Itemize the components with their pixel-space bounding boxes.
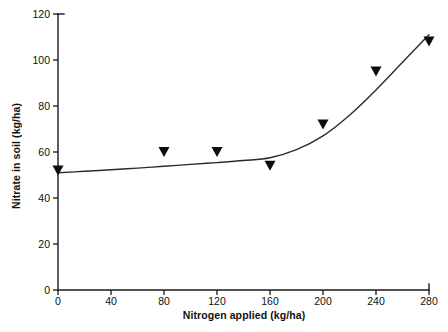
x-tick-label: 80 [158, 295, 170, 307]
y-tick-label: 120 [20, 8, 50, 20]
x-tick-label: 0 [55, 295, 61, 307]
x-tick-label: 240 [367, 295, 385, 307]
y-tick-label: 80 [20, 100, 50, 112]
data-point-marker [212, 147, 223, 157]
data-point-marker [53, 165, 64, 175]
data-point-marker [265, 161, 276, 171]
y-tick-label: 40 [20, 192, 50, 204]
y-tick-label: 60 [20, 146, 50, 158]
y-tick-label: 100 [20, 54, 50, 66]
y-tick-label: 0 [20, 284, 50, 296]
x-tick-label: 280 [420, 295, 438, 307]
chart-axes [58, 14, 429, 290]
data-point-marker [371, 67, 382, 77]
x-tick-label: 200 [314, 295, 332, 307]
x-axis-label: Nitrogen applied (kg/ha) [58, 309, 430, 321]
data-point-marker [318, 119, 329, 129]
fitted-trend-curve [58, 35, 429, 173]
x-tick-label: 120 [208, 295, 226, 307]
chart-plot-area [0, 0, 448, 332]
data-point-marker [159, 147, 170, 157]
x-tick-label: 160 [261, 295, 279, 307]
y-tick-label: 20 [20, 238, 50, 250]
x-tick-label: 40 [105, 295, 117, 307]
chart-figure: Nitrate in soil (kg/ha) 020406080100120 … [0, 0, 448, 332]
y-tick-marks [53, 14, 58, 290]
data-point-markers [53, 37, 435, 176]
data-point-marker [424, 37, 435, 47]
